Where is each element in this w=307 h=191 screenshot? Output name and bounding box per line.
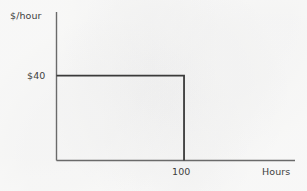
chart-canvas: $/hour $40 100 Hours xyxy=(0,0,307,191)
y-tick-label-40: $40 xyxy=(27,71,45,81)
x-axis-title: Hours xyxy=(262,167,290,177)
chart-plot-area xyxy=(0,0,307,191)
x-tick-label-100: 100 xyxy=(172,167,190,177)
y-axis-title: $/hour xyxy=(10,11,42,21)
supply-curve-line xyxy=(57,76,185,161)
